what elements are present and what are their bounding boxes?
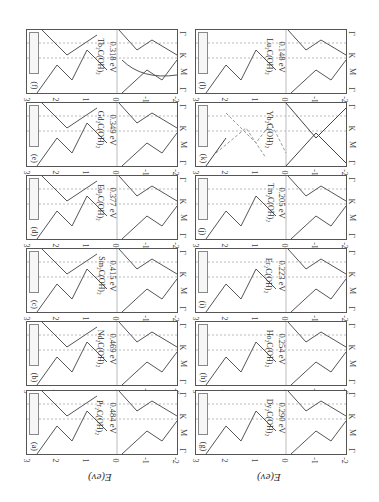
energy-axis-label: E(ev) (88, 472, 112, 484)
formula-label: Lu₂C(OH)₂ (265, 38, 274, 75)
band-panel: (e) Gd₂C(OH)₂ 0.349 eV 3210-1-2 ΓKMΓ (26, 102, 178, 167)
formula-label: Tb₂C(OH)₂ (96, 38, 105, 75)
formula-label: Tm₂C(OH)₂ (266, 183, 275, 222)
band-panel: (g) Dy₂C(OH)₂ 0.290 eV 3210-1-2 ΓKMΓ (195, 390, 347, 455)
gap-label: 0.205 eV (277, 187, 287, 218)
kpath-labels: ΓKMΓ (178, 102, 190, 167)
gap-label: 0.484 eV (108, 402, 118, 433)
band-panel: (h) Ho₂C(OH)₂ 0.254 eV 3210-1-2 ΓKMΓ (195, 321, 347, 386)
panel-label: (a) (30, 442, 39, 451)
gap-label: 0.377 eV (108, 187, 118, 218)
legend (29, 32, 39, 74)
formula-label: Ho₂C(OH)₂ (265, 330, 274, 368)
panel-label: (b) (30, 373, 39, 382)
formula-label: Pr₂C(OH)₂ (95, 400, 104, 435)
plot-area: (e) Gd₂C(OH)₂ 0.349 eV (26, 102, 178, 167)
kpath-labels: ΓKMΓ (178, 390, 190, 455)
kpath-labels: ΓKMΓ (347, 29, 359, 94)
kpath-labels: ΓKMΓ (347, 321, 359, 386)
legend (198, 105, 208, 147)
gap-label: 0.318 eV (108, 41, 118, 72)
band-panel: (i) Er₂C(OH)₂ 0.223 eV 3210-1-2 ΓKMΓ (195, 248, 347, 313)
plot-area: (c) Sm₂C(OH)₂ 0.415 eV (26, 248, 178, 313)
band-panel: (f) Tb₂C(OH)₂ 0.318 eV 3 2 1 0 -1 -2 Γ K… (26, 29, 178, 94)
band-panel: (c) Sm₂C(OH)₂ 0.415 eV 3210-1-2 ΓKMΓ (26, 248, 178, 313)
plot-area: (l) Lu₂C(OH)₂ 0.148 eV (195, 29, 347, 94)
legend (198, 178, 208, 220)
kpath-labels: ΓKMΓ (178, 248, 190, 313)
plot-area: (i) Er₂C(OH)₂ 0.223 eV (195, 248, 347, 313)
column-right: (l) Lu₂C(OH)₂ 0.148 eV 3210-1-2 ΓKMΓ (k) (195, 0, 379, 502)
band-panel: (a) Pr₂C(OH)₂ 0.484 eV 3210-1-2 ΓKMΓ (26, 390, 178, 455)
panel-label: (h) (199, 373, 208, 382)
plot-area: (j) Tm₂C(OH)₂ 0.205 eV (195, 175, 347, 240)
gap-label: 0.349 eV (108, 114, 118, 145)
energy-ticks: 3210-1-2 (191, 456, 351, 466)
gap-label: 0.223 eV (277, 260, 287, 291)
panel-label: (g) (199, 442, 208, 451)
formula-label: Sm₂C(OH)₂ (97, 256, 106, 294)
legend (29, 178, 39, 220)
kpath-labels: ΓKMΓ (347, 390, 359, 455)
formula-label: Dy₂C(OH)₂ (265, 399, 274, 437)
formula-label: Yb₂C(OH)₂ (265, 111, 274, 149)
formula-label: Er₂C(OH)₂ (264, 258, 273, 293)
formula-label: Eu₂C(OH)₂ (96, 184, 105, 221)
plot-area: (f) Tb₂C(OH)₂ 0.318 eV (26, 29, 178, 94)
panel-label: (k) (199, 154, 208, 163)
legend (198, 324, 208, 366)
plot-area: (a) Pr₂C(OH)₂ 0.484 eV (26, 390, 178, 455)
gap-label: 0.254 eV (277, 333, 287, 364)
formula-label: Gd₂C(OH)₂ (96, 111, 105, 149)
panel-label: (i) (198, 301, 207, 309)
kpath-labels: ΓKMΓ (347, 248, 359, 313)
legend (29, 105, 39, 147)
legend (198, 393, 208, 435)
kpath-labels: ΓKMΓ (347, 102, 359, 167)
band-panel: (d) Eu₂C(OH)₂ 0.377 eV 3210-1-2 ΓKMΓ (26, 175, 178, 240)
plot-area: (b) Nd₂C(OH)₂ 0.469 eV (26, 321, 178, 386)
gap-label: 0.290 eV (277, 402, 287, 433)
kpath-labels: ΓKMΓ (178, 321, 190, 386)
plot-area: (g) Dy₂C(OH)₂ 0.290 eV (195, 390, 347, 455)
band-panel: (k) Yb₂C(OH)₂ 3210-1-2 ΓKMΓ (195, 102, 347, 167)
panel-label: (l) (198, 82, 207, 90)
legend (198, 251, 208, 293)
panel-label: (j) (198, 228, 207, 236)
formula-label: Nd₂C(OH)₂ (96, 330, 105, 368)
legend (29, 393, 39, 435)
plot-area: (h) Ho₂C(OH)₂ 0.254 eV (195, 321, 347, 386)
panel-label: (d) (30, 227, 39, 236)
kpath-labels: ΓKMΓ (347, 175, 359, 240)
band-panel: (l) Lu₂C(OH)₂ 0.148 eV 3210-1-2 ΓKMΓ (195, 29, 347, 94)
panel-label: (c) (30, 300, 39, 309)
gap-label: 0.415 eV (108, 260, 118, 291)
legend (29, 251, 39, 293)
panel-label: (e) (30, 154, 39, 163)
legend (198, 32, 208, 74)
plot-area: (k) Yb₂C(OH)₂ (195, 102, 347, 167)
panel-label: (f) (30, 82, 39, 90)
energy-ticks: 3210-1-2 (22, 456, 182, 466)
column-left: (f) Tb₂C(OH)₂ 0.318 eV 3 2 1 0 -1 -2 Γ K… (26, 0, 211, 502)
energy-axis-label: E(ev) (257, 472, 281, 484)
band-panel: (b) Nd₂C(OH)₂ 0.469 eV 3210-1-2 ΓKMΓ (26, 321, 178, 386)
gap-label: 0.148 eV (277, 41, 287, 72)
gap-label: 0.469 eV (108, 333, 118, 364)
legend (29, 324, 39, 366)
band-panel: (j) Tm₂C(OH)₂ 0.205 eV 3210-1-2 ΓKMΓ (195, 175, 347, 240)
kpath-labels: Γ K M Γ (178, 29, 190, 94)
plot-area: (d) Eu₂C(OH)₂ 0.377 eV (26, 175, 178, 240)
kpath-labels: ΓKMΓ (178, 175, 190, 240)
